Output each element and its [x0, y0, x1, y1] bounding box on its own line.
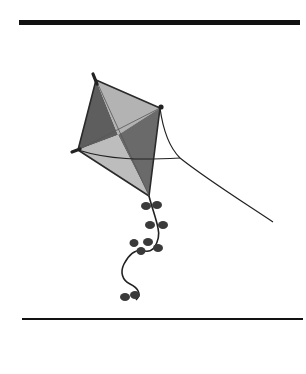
kite-icon [72, 74, 164, 196]
kite-tail [120, 196, 168, 301]
bottom-rule [22, 318, 303, 320]
